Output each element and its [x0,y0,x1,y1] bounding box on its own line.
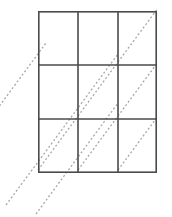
diagram-canvas [0,0,172,217]
figure-container [0,0,172,217]
figure-background [0,0,172,217]
